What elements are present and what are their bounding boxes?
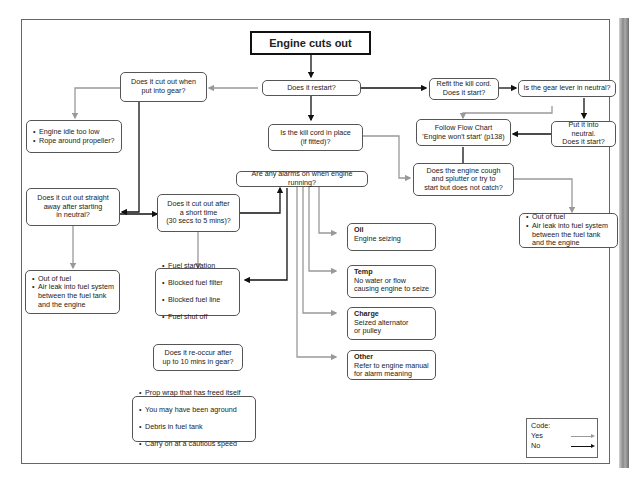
list-item: Carry on at a cautious speed	[139, 440, 240, 449]
node-does-it-restart: Does it restart?	[262, 80, 361, 96]
black-arrow-icon	[571, 446, 593, 447]
legend-yes-label: Yes	[531, 431, 543, 441]
node-prop-causes: Prop wrap that has freed itself You may …	[132, 396, 256, 442]
node-cut-out-straight-away: Does it cut out straight away after star…	[26, 188, 120, 226]
list-item: Blocked fuel line	[162, 296, 223, 305]
legend-no-label: No	[531, 441, 540, 451]
node-reoccur: Does it re-occur after up to 10 mins in …	[153, 344, 243, 371]
node-fuel-causes-right: Out of fuelAir leak into fuel system bet…	[519, 213, 618, 248]
node-cut-out-in-gear: Does it cut out when put into gear?	[120, 72, 207, 102]
node-alarm-temp: TempNo water or flow causing engine to s…	[347, 265, 436, 298]
title-box: Engine cuts out	[250, 31, 371, 55]
alarm-text: No water or flow causing engine to seize	[354, 277, 429, 294]
list-item: Fuel shut off	[162, 313, 223, 322]
node-cut-out-short-time: Does it cut out after a short time (30 s…	[157, 194, 240, 232]
node-fuel-causes-left: Out of fuelAir leak into fuel system bet…	[25, 270, 120, 314]
node-idle-causes: Engine idle too lowRope around propeller…	[26, 120, 122, 153]
node-cough-splutter: Does the engine cough and splutter or tr…	[413, 163, 514, 196]
alarm-text: Seized alternator or pulley	[354, 319, 408, 336]
alarm-text: Engine seizing	[354, 235, 401, 244]
node-fuel-starvation: Fuel starvation Blocked fuel filter Bloc…	[155, 268, 240, 316]
alarm-text: Refer to engine manual for alarm meaning	[354, 362, 429, 379]
list-item: Debris in fuel tank	[139, 423, 240, 432]
list-item: Air leak into fuel system between the fu…	[526, 222, 608, 248]
node-refit-kill-cord: Refit the kill cord. Does it start?	[429, 78, 499, 100]
list-item: Fuel starvation	[162, 262, 223, 271]
node-kill-cord: Is the kill cord in place (if fitted)?	[268, 124, 363, 151]
node-follow-flow-chart: Follow Flow Chart 'Engine won't start' (…	[416, 119, 511, 146]
node-gear-lever-neutral: Is the gear lever in neutral?	[518, 80, 616, 97]
legend-title: Code:	[531, 421, 593, 431]
node-alarm-oil: OilEngine seizing	[347, 223, 436, 251]
node-put-into-neutral: Put it into neutral. Does it start?	[551, 121, 616, 147]
list-item: Rope around propeller?	[33, 137, 115, 146]
legend: Code: Yes No	[526, 418, 598, 458]
node-alarm-other: OtherRefer to engine manual for alarm me…	[347, 350, 436, 380]
list-item: You may have been aground	[139, 406, 240, 415]
grey-arrow-icon	[571, 436, 593, 437]
list-item: Air leak into fuel system between the fu…	[32, 283, 114, 309]
list-item: Prop wrap that has freed itself	[139, 389, 240, 398]
node-alarm-charge: ChargeSeized alternator or pulley	[347, 307, 436, 340]
list-item: Blocked fuel filter	[162, 279, 223, 288]
node-any-alarms: Are any alarms on when engine running?	[236, 171, 368, 187]
